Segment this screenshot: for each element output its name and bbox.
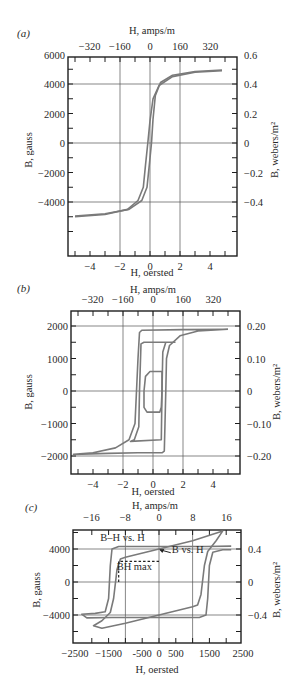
plot-area-a: −4−2024−320−160016032060000.640000.42000… bbox=[38, 41, 264, 272]
y-tick-label: 4000 bbox=[49, 544, 70, 555]
y-tick-label: 0 bbox=[60, 138, 65, 149]
x2-tick-label: −320 bbox=[82, 294, 104, 305]
y2-tick-label: 0 bbox=[248, 577, 253, 588]
x-tick-label: −4 bbox=[87, 479, 99, 490]
y-tick-label: −2000 bbox=[41, 451, 68, 462]
y-axis-label-c: B, gauss bbox=[31, 572, 42, 608]
x-tick-label: −1500 bbox=[95, 648, 122, 659]
y-axis-label-a: B, gauss bbox=[23, 132, 34, 168]
x-tick-label: 4 bbox=[210, 479, 216, 490]
x-tick-label: 0 bbox=[147, 261, 152, 272]
x-tick-label: 1500 bbox=[199, 648, 220, 659]
y-tick-label: 0 bbox=[65, 577, 70, 588]
y2-axis-label-c: B, webers/m² bbox=[271, 562, 282, 618]
x2-tick-label: −16 bbox=[83, 512, 99, 523]
x-tick-label: 2 bbox=[177, 261, 182, 272]
x2-tick-label: 8 bbox=[190, 512, 195, 523]
y2-tick-label: 0 bbox=[244, 138, 249, 149]
y-tick-label: −4000 bbox=[38, 197, 65, 208]
y-tick-label: 1000 bbox=[47, 354, 68, 365]
x2-axis-label-c: H, amps/m bbox=[132, 500, 178, 511]
x2-tick-label: −160 bbox=[112, 294, 134, 305]
y2-tick-label: 0.4 bbox=[248, 544, 262, 555]
y2-tick-label: −0.2 bbox=[244, 168, 263, 179]
y2-tick-label: −0.4 bbox=[248, 610, 268, 621]
x2-tick-label: −320 bbox=[79, 41, 101, 52]
y-tick-label: −1000 bbox=[41, 419, 68, 430]
x-axis-label-c: H, oersted bbox=[135, 664, 179, 675]
plot-frame bbox=[71, 311, 240, 474]
x-tick-label: −2 bbox=[114, 261, 125, 272]
y2-tick-label: 0.10 bbox=[247, 354, 265, 365]
plot-area-c: −2500−1500-500050015002500−16−8081640000… bbox=[43, 512, 268, 659]
x2-tick-label: 160 bbox=[175, 294, 191, 305]
y-tick-label: −2000 bbox=[38, 168, 65, 179]
x-tick-label: 0 bbox=[156, 648, 161, 659]
x-tick-label: 2 bbox=[180, 479, 185, 490]
y-tick-label: 2000 bbox=[44, 109, 65, 120]
y2-axis-label-b: B, webers/m² bbox=[271, 364, 282, 420]
plot-frame bbox=[68, 57, 237, 256]
x-tick-label: -500 bbox=[133, 648, 152, 659]
y-tick-label: 4000 bbox=[44, 79, 65, 90]
y-tick-label: −4000 bbox=[43, 610, 70, 621]
hysteresis-curve bbox=[75, 71, 222, 217]
annotation-label: B–H vs. H bbox=[100, 532, 145, 543]
x2-tick-label: 160 bbox=[172, 41, 188, 52]
panel-label-c: (c) bbox=[25, 501, 38, 514]
panel-label-a: (a) bbox=[17, 27, 30, 40]
annotation-label: B vs. H bbox=[172, 544, 204, 555]
y2-tick-label: −0.4 bbox=[244, 197, 264, 208]
y2-tick-label: 0.4 bbox=[244, 79, 258, 90]
panel-label-b: (b) bbox=[17, 282, 30, 295]
x-tick-label: 2500 bbox=[233, 648, 254, 659]
y2-tick-label: −0.20 bbox=[247, 451, 271, 462]
y2-tick-label: −0.10 bbox=[247, 419, 271, 430]
hysteresis-figure: (a) H, amps/m H, oersted B, gauss B, web… bbox=[0, 0, 296, 695]
y2-tick-label: 0.20 bbox=[247, 321, 265, 332]
x-tick-label: −4 bbox=[84, 261, 96, 272]
hysteresis-curve bbox=[74, 329, 229, 454]
chart-c: (c) H, amps/m H, oersted B, gauss B, web… bbox=[25, 500, 282, 675]
x-tick-label: 0 bbox=[150, 479, 155, 490]
x-tick-label: −2500 bbox=[62, 648, 89, 659]
x-tick-label: 500 bbox=[168, 648, 184, 659]
x2-tick-label: 0 bbox=[147, 41, 152, 52]
x2-tick-label: 0 bbox=[150, 294, 155, 305]
x2-tick-label: 0 bbox=[156, 512, 161, 523]
y-tick-label: 2000 bbox=[47, 321, 68, 332]
x-tick-label: −2 bbox=[117, 479, 128, 490]
x2-axis-label-a: H, amps/m bbox=[129, 25, 175, 36]
x2-tick-label: −160 bbox=[109, 41, 131, 52]
y2-tick-label: 0.6 bbox=[244, 50, 257, 61]
x2-tick-label: −8 bbox=[120, 512, 131, 523]
y-tick-label: 0 bbox=[63, 386, 68, 397]
chart-a: (a) H, amps/m H, oersted B, gauss B, web… bbox=[17, 25, 280, 278]
annotation-label: BH max bbox=[117, 561, 153, 572]
y-axis-label-b: B, gauss bbox=[23, 374, 34, 410]
x2-tick-label: 320 bbox=[202, 41, 218, 52]
x-tick-label: 4 bbox=[207, 261, 213, 272]
y-tick-label: 6000 bbox=[44, 50, 65, 61]
y2-axis-label-a: B, webers/m² bbox=[269, 122, 280, 178]
plot-area-b: −4−2024−320−160016032020000.2010000.1000… bbox=[41, 294, 271, 490]
x2-tick-label: 16 bbox=[221, 512, 232, 523]
y2-tick-label: 0 bbox=[247, 386, 252, 397]
chart-b: (b) H, amps/m H, oersted B, gauss B, web… bbox=[17, 282, 282, 497]
y2-tick-label: 0.2 bbox=[244, 109, 257, 120]
x2-tick-label: 320 bbox=[205, 294, 221, 305]
